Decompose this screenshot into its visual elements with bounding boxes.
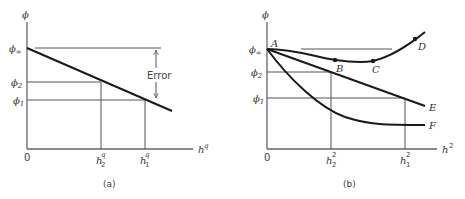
label-d: D — [417, 41, 426, 52]
svg-text:1: 1 — [145, 161, 149, 169]
panel-b: A B C D E F ϕ ϕ∞ ϕ2 ϕ1 0 h 2 2 h 2 1 — [249, 9, 453, 189]
error-label: Error — [147, 70, 172, 81]
svg-text:1: 1 — [406, 161, 410, 169]
svg-text:q: q — [145, 151, 150, 159]
svg-text:ϕ1: ϕ1 — [13, 95, 24, 108]
x-tick-h1q: h q 1 — [140, 151, 150, 169]
point-b — [333, 58, 337, 62]
y-axis-label: ϕ — [22, 9, 29, 20]
diagram-canvas: Error ϕ ϕ∞ ϕ2 ϕ1 0 h q 2 h q 1 h q — [0, 0, 465, 199]
svg-text:2: 2 — [449, 142, 453, 150]
y-tick-phi-inf: ϕ∞ — [249, 44, 262, 57]
x-axis-label: h q — [198, 142, 209, 155]
svg-text:ϕ∞: ϕ∞ — [249, 44, 262, 57]
x-tick-h2q: h q 2 — [96, 151, 106, 169]
point-c — [371, 59, 375, 63]
x-tick-h1-squared: h 2 1 — [400, 151, 410, 169]
y-tick-phi-inf: ϕ∞ — [9, 43, 22, 56]
svg-text:h: h — [442, 144, 448, 155]
x-axis-label: h 2 — [442, 142, 453, 155]
svg-text:ϕ1: ϕ1 — [253, 93, 264, 106]
y-axis-label: ϕ — [262, 9, 269, 20]
svg-text:2: 2 — [406, 151, 410, 159]
svg-text:q: q — [204, 142, 209, 150]
y-tick-phi2: ϕ2 — [11, 77, 23, 90]
svg-text:2: 2 — [101, 161, 105, 169]
origin-label: 0 — [24, 152, 30, 163]
label-a: A — [270, 38, 278, 49]
panel-a: Error ϕ ϕ∞ ϕ2 ϕ1 0 h q 2 h q 1 h q — [9, 9, 209, 189]
label-e: E — [428, 102, 437, 113]
svg-text:2: 2 — [332, 151, 336, 159]
svg-text:2: 2 — [332, 161, 336, 169]
label-f: F — [428, 120, 437, 131]
y-tick-phi1: ϕ1 — [13, 95, 24, 108]
svg-text:q: q — [101, 151, 106, 159]
svg-text:ϕ2: ϕ2 — [251, 67, 263, 80]
point-d — [413, 37, 417, 41]
origin-label: 0 — [264, 152, 270, 163]
y-tick-phi2: ϕ2 — [251, 67, 263, 80]
svg-text:ϕ∞: ϕ∞ — [9, 43, 22, 56]
svg-text:ϕ2: ϕ2 — [11, 77, 23, 90]
x-tick-h2-squared: h 2 2 — [326, 151, 336, 169]
label-c: C — [372, 64, 380, 75]
caption-a: (a) — [103, 179, 116, 189]
y-tick-phi1: ϕ1 — [253, 93, 264, 106]
caption-b: (b) — [343, 179, 356, 189]
label-b: B — [335, 63, 343, 74]
